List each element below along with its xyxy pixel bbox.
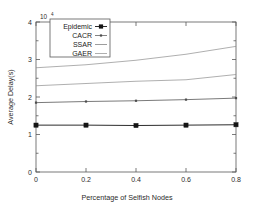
x-axis-label: Percentage of Selfish Nodes [81, 193, 173, 202]
chart-legend[interactable]: EpidemicCACRSSARGAER [50, 19, 110, 57]
y-axis-tick-labels: 01234 [28, 19, 32, 176]
data-series-group [34, 46, 238, 127]
line-chart: 01234 00.20.40.60.8 10 4 Percentage of S… [0, 0, 255, 209]
x-tick-label: 0.6 [181, 176, 191, 183]
y-tick-label: 2 [28, 94, 32, 101]
legend-label-ssar: SSAR [73, 41, 92, 48]
data-point-marker [184, 123, 188, 127]
y-axis-label: Average Delay(s) [6, 69, 15, 124]
data-point-marker [134, 123, 138, 127]
y-axis-multiplier-base: 10 [40, 13, 48, 20]
series-epidemic [34, 123, 238, 128]
data-point-marker [85, 100, 87, 102]
data-point-marker [35, 102, 37, 104]
data-point-marker [135, 100, 137, 102]
y-tick-label: 0 [28, 169, 32, 176]
series-ssar [36, 75, 236, 86]
y-tick-label: 1 [28, 131, 32, 138]
legend-label-epidemic: Epidemic [63, 23, 92, 31]
series-path [36, 75, 236, 86]
legend-marker-sample [99, 24, 103, 28]
y-tick-label: 3 [28, 56, 32, 63]
x-tick-label: 0 [34, 176, 38, 183]
data-point-marker [34, 123, 38, 127]
legend-marker-sample [100, 34, 102, 36]
data-point-marker [84, 123, 88, 127]
y-tick-label: 4 [28, 19, 32, 26]
data-point-marker [185, 99, 187, 101]
y-axis-multiplier-exponent: 4 [51, 12, 54, 17]
x-tick-label: 0.2 [81, 176, 91, 183]
legend-label-gaer: GAER [72, 50, 92, 57]
data-point-marker [235, 97, 237, 99]
x-tick-label: 0.4 [131, 176, 141, 183]
x-axis-tick-labels: 00.20.40.60.8 [34, 176, 241, 183]
data-point-marker [234, 123, 238, 127]
figure-container: 01234 00.20.40.60.8 10 4 Percentage of S… [0, 0, 255, 209]
legend-label-cacr: CACR [72, 32, 92, 39]
x-tick-label: 0.8 [231, 176, 241, 183]
series-cacr [35, 97, 237, 104]
chart-canvas: 01234 00.20.40.60.8 10 4 Percentage of S… [0, 0, 255, 209]
